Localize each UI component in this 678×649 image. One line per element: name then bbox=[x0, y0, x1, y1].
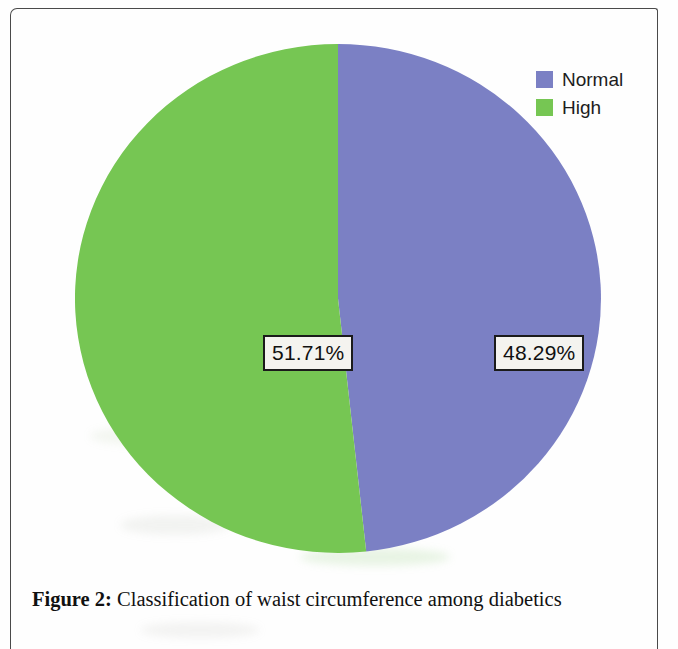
legend: Normal High bbox=[536, 65, 656, 121]
legend-swatch-normal-icon bbox=[536, 71, 553, 88]
scan-artifact bbox=[140, 622, 260, 638]
pie-graphic: 51.71% 48.29% bbox=[75, 44, 601, 553]
legend-label-high: High bbox=[562, 98, 601, 117]
pie-chart: 51.71% 48.29% Normal High bbox=[12, 10, 656, 572]
pie-svg bbox=[75, 44, 601, 553]
legend-swatch-high-icon bbox=[536, 99, 553, 116]
legend-item-high[interactable]: High bbox=[536, 93, 656, 121]
legend-item-normal[interactable]: Normal bbox=[536, 65, 656, 93]
pie-label-high: 51.71% bbox=[263, 335, 353, 371]
figure-caption: Figure 2: Classification of waist circum… bbox=[32, 588, 646, 612]
figure-caption-text: Classification of waist circumference am… bbox=[112, 588, 562, 610]
pie-label-normal: 48.29% bbox=[494, 335, 584, 371]
figure-page: 51.71% 48.29% Normal High Figure 2: Clas… bbox=[0, 0, 678, 649]
figure-caption-label: Figure 2: bbox=[32, 588, 112, 610]
pie-slice-high[interactable] bbox=[75, 44, 366, 553]
legend-label-normal: Normal bbox=[562, 70, 623, 89]
